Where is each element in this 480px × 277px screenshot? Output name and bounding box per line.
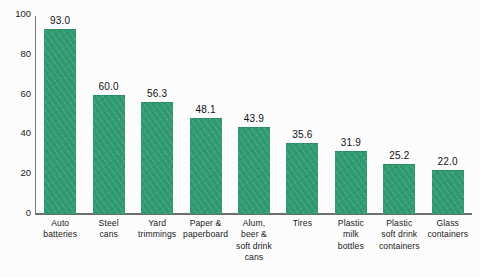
x-axis-category-label: Steelcans (84, 218, 132, 241)
bar[interactable] (44, 29, 76, 214)
y-axis-tick-label: 100 (0, 9, 31, 19)
x-axis-category-label-line: containers (425, 229, 471, 240)
bar-slot: 93.0 (36, 14, 84, 214)
x-axis-category-label-line: cans (85, 229, 131, 240)
x-axis-category-label-line: bottles (328, 241, 374, 252)
bar-value-label: 35.6 (292, 129, 312, 140)
x-axis-category-labels: AutobatteriesSteelcansYardtrimmingsPaper… (36, 218, 472, 263)
bar-chart: 020406080100 93.060.056.348.143.935.631.… (0, 0, 480, 277)
x-axis-category-label-line: Glass (425, 218, 471, 229)
y-axis-tick-label: 60 (0, 89, 31, 99)
bar[interactable] (383, 164, 415, 214)
x-axis-category-label-line: Tires (279, 218, 325, 229)
bar-value-label: 60.0 (99, 81, 119, 92)
x-axis-category-label: Autobatteries (36, 218, 84, 241)
bar[interactable] (93, 95, 125, 214)
bar-value-label: 93.0 (50, 15, 70, 26)
x-axis-category-label-line: beer & (231, 229, 277, 240)
bar[interactable] (286, 143, 318, 214)
x-axis-category-label-line: cans (231, 252, 277, 263)
x-axis-category-label-line: Paper & (182, 218, 228, 229)
bar-value-label: 31.9 (341, 137, 361, 148)
y-axis-tick-label: 20 (0, 168, 31, 178)
x-axis-category-label: Glasscontainers (424, 218, 472, 241)
bar-value-label: 25.2 (389, 150, 409, 161)
x-axis-category-label-line: Plastic (376, 218, 422, 229)
bar-slot: 22.0 (424, 14, 472, 214)
bar-slot: 56.3 (133, 14, 181, 214)
bar-series: 93.060.056.348.143.935.631.925.222.0 (36, 14, 472, 214)
x-axis-category-label: Tires (278, 218, 326, 229)
x-axis-category-label-line: paperboard (182, 229, 228, 240)
x-axis-category-label-line: containers (376, 241, 422, 252)
y-axis-tick-label: 80 (0, 49, 31, 59)
x-axis-category-label-line: Plastic (328, 218, 374, 229)
x-axis-category-label-line: soft drink (376, 229, 422, 240)
x-axis-category-label-line: milk (328, 229, 374, 240)
bar-value-label: 22.0 (438, 156, 458, 167)
bar[interactable] (335, 151, 367, 214)
x-axis-category-label-line: Auto (37, 218, 83, 229)
bar[interactable] (432, 170, 464, 214)
x-axis-category-label-line: Alum, (231, 218, 277, 229)
bar-slot: 48.1 (181, 14, 229, 214)
x-axis-category-label-line: Steel (85, 218, 131, 229)
y-axis-tick-label: 40 (0, 129, 31, 139)
x-axis-category-label-line: soft drink (231, 241, 277, 252)
x-axis-category-label: Alum,beer &soft drinkcans (230, 218, 278, 263)
x-axis-category-label: Yardtrimmings (133, 218, 181, 241)
bar-slot: 43.9 (230, 14, 278, 214)
x-axis-category-label-line: Yard (134, 218, 180, 229)
bar-value-label: 43.9 (244, 113, 264, 124)
bar-slot: 60.0 (84, 14, 132, 214)
bar-slot: 25.2 (375, 14, 423, 214)
bar-slot: 31.9 (327, 14, 375, 214)
bar-slot: 35.6 (278, 14, 326, 214)
bar[interactable] (238, 127, 270, 214)
x-axis-category-label: Plasticmilkbottles (327, 218, 375, 252)
bar[interactable] (141, 102, 173, 214)
y-axis-tick-label: 0 (0, 208, 31, 218)
x-axis-category-label-line: trimmings (134, 229, 180, 240)
bar-value-label: 56.3 (147, 88, 167, 99)
bar-value-label: 48.1 (195, 104, 215, 115)
bar[interactable] (190, 118, 222, 214)
x-axis-category-label: Plasticsoft drinkcontainers (375, 218, 423, 252)
x-axis-category-label-line: batteries (37, 229, 83, 240)
x-axis-category-label: Paper &paperboard (181, 218, 229, 241)
